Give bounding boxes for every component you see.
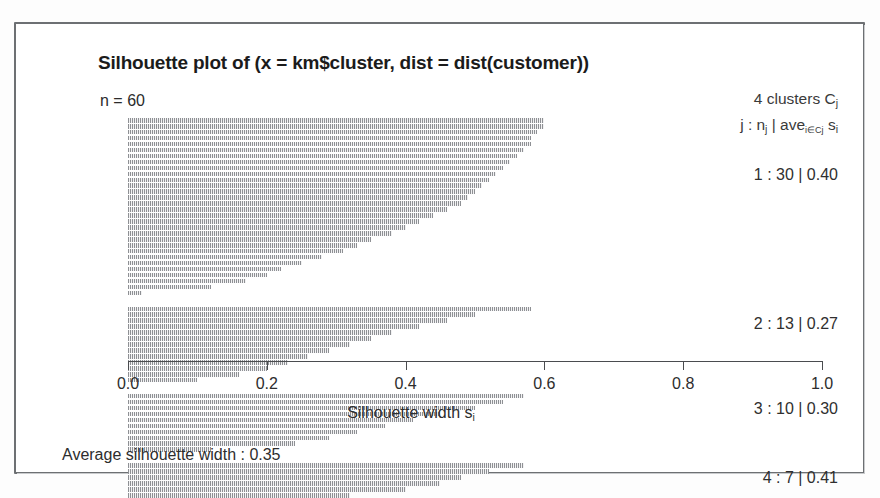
x-axis-tick-label: 0.8: [672, 375, 694, 393]
silhouette-bar: [128, 307, 531, 312]
legend-cluster-subscript: j: [836, 97, 838, 109]
x-axis-tick: [544, 361, 545, 370]
page-title: Silhouette plot of (x = km$cluster, dist…: [98, 52, 589, 74]
silhouette-bar: [128, 261, 302, 266]
silhouette-bar: [128, 354, 308, 359]
silhouette-bar: [128, 130, 537, 135]
silhouette-bar: [128, 154, 517, 159]
silhouette-bar: [128, 124, 544, 129]
legend-formula-part-c: s: [824, 116, 836, 133]
silhouette-bar: [128, 487, 406, 492]
silhouette-bar: [128, 225, 406, 230]
silhouette-bar: [128, 118, 544, 123]
x-axis-tick-label: 0.4: [394, 375, 416, 393]
legend-formula-sub-c: i: [836, 123, 838, 135]
x-axis-tick-label: 0.2: [256, 375, 278, 393]
x-axis-tick: [128, 361, 129, 370]
cluster-summary-label-4: 4 : 7 | 0.41: [763, 469, 838, 487]
silhouette-bar: [128, 285, 211, 290]
silhouette-bar: [128, 342, 350, 347]
silhouette-bar: [128, 348, 329, 353]
silhouette-bar: [128, 207, 447, 212]
x-axis-tick: [406, 361, 407, 370]
silhouette-bar: [128, 366, 267, 371]
silhouette-bar: [128, 148, 524, 153]
cluster-summary-label-1: 1 : 30 | 0.40: [754, 166, 838, 184]
silhouette-bar: [128, 469, 489, 474]
silhouette-bar: [128, 424, 385, 429]
silhouette-bar: [128, 189, 475, 194]
x-axis-title-text: Silhouette width s: [347, 404, 472, 421]
cluster-summary-label-2: 2 : 13 | 0.27: [754, 315, 838, 333]
silhouette-bar: [128, 201, 461, 206]
silhouette-bar: [128, 183, 482, 188]
silhouette-bar: [128, 249, 343, 254]
silhouette-bar: [128, 267, 281, 272]
silhouette-bar: [128, 255, 322, 260]
x-axis-tick-label: 1.0: [811, 375, 833, 393]
silhouette-bar: [128, 166, 503, 171]
silhouette-bar: [128, 324, 419, 329]
silhouette-bar: [128, 312, 475, 317]
silhouette-bar: [128, 219, 419, 224]
plot-area: [128, 114, 822, 360]
silhouette-bar: [128, 475, 461, 480]
legend-cluster-count-line: 4 clusters Cj: [740, 88, 838, 114]
silhouette-bar: [128, 493, 350, 498]
silhouette-bar: [128, 318, 447, 323]
silhouette-bar: [128, 213, 433, 218]
x-axis-tick: [267, 361, 268, 370]
silhouette-bar: [128, 291, 142, 296]
x-axis-tick-label: 0.6: [533, 375, 555, 393]
silhouette-bar: [128, 330, 392, 335]
sample-size-label: n = 60: [100, 92, 145, 110]
silhouette-bar: [128, 372, 239, 377]
silhouette-bar: [128, 394, 524, 399]
silhouette-bar: [128, 481, 440, 486]
silhouette-bar: [128, 231, 392, 236]
average-silhouette-width-note: Average silhouette width : 0.35: [62, 446, 281, 464]
silhouette-bar: [128, 178, 489, 183]
silhouette-bar: [128, 172, 496, 177]
x-axis-title-subscript: i: [473, 411, 475, 423]
silhouette-bar: [128, 336, 371, 341]
x-axis-line: [128, 361, 822, 362]
silhouette-bar: [128, 243, 357, 248]
silhouette-bar: [128, 136, 531, 141]
x-axis-title: Silhouette width si: [0, 404, 880, 423]
silhouette-plot-page: Silhouette plot of (x = km$cluster, dist…: [0, 0, 880, 498]
silhouette-bar: [128, 142, 531, 147]
silhouette-bar: [128, 160, 510, 165]
x-axis-tick: [683, 361, 684, 370]
x-axis-tick-label: 0.0: [117, 375, 139, 393]
silhouette-bar: [128, 279, 246, 284]
silhouette-bar: [128, 430, 357, 435]
silhouette-bar: [128, 463, 524, 468]
silhouette-bar: [128, 273, 267, 278]
silhouette-bar: [128, 195, 468, 200]
silhouette-bar: [128, 237, 371, 242]
silhouette-bar: [128, 436, 329, 441]
x-axis-tick: [822, 361, 823, 370]
legend-cluster-count-text: 4 clusters C: [754, 90, 836, 107]
